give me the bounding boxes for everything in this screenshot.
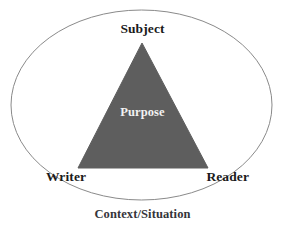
vertex-label-writer: Writer xyxy=(46,170,86,184)
vertex-label-reader: Reader xyxy=(206,170,249,184)
vertex-label-subject: Subject xyxy=(0,22,285,36)
center-label-purpose: Purpose xyxy=(0,106,285,119)
diagram-caption: Context/Situation xyxy=(0,208,285,221)
rhetorical-triangle-diagram: Subject Purpose Writer Reader Context/Si… xyxy=(0,0,285,230)
